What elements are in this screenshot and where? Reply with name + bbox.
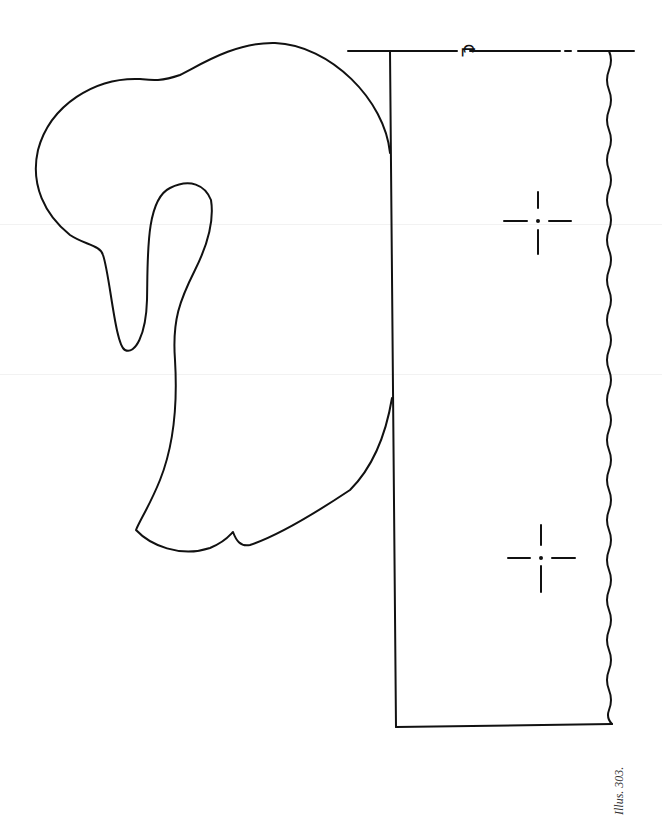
swan-profile	[36, 43, 392, 552]
wavy-edge	[607, 51, 612, 724]
centerline-symbol: ℄	[458, 44, 478, 57]
drill-center-mark-1	[504, 192, 571, 254]
figure-caption: Illus. 303.	[612, 767, 627, 815]
base-block	[390, 51, 612, 727]
drill-center-mark-2	[508, 525, 575, 592]
